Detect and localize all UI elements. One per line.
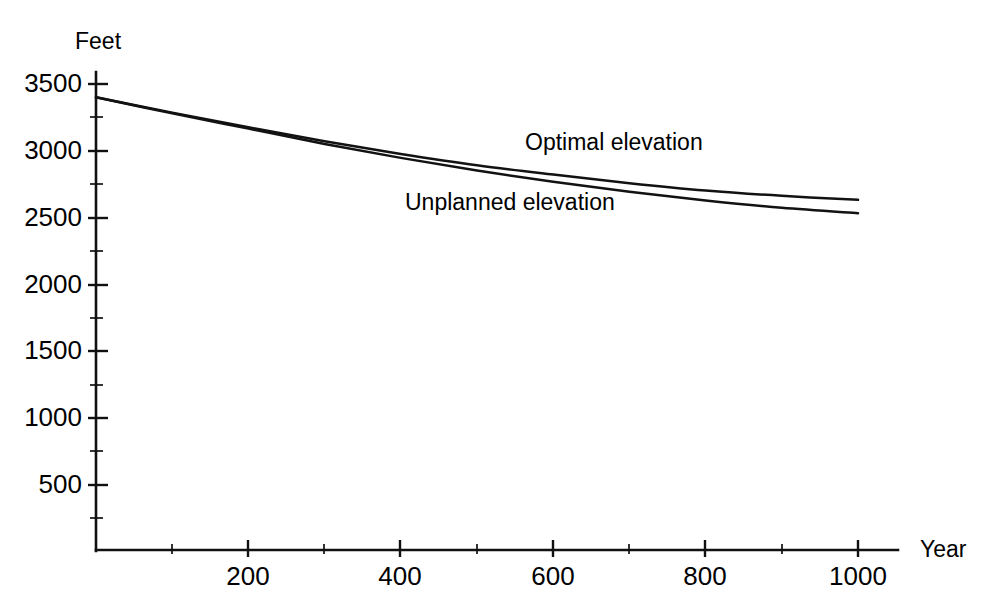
y-tick-label-2000: 2000: [0, 271, 82, 297]
y-tick-label-3500: 3500: [0, 70, 82, 96]
x-tick-label-400: 400: [345, 563, 455, 589]
x-axis-title: Year: [920, 538, 966, 561]
chart-canvas: [0, 0, 994, 611]
x-tick-label-800: 800: [650, 563, 760, 589]
y-tick-label-2500: 2500: [0, 204, 82, 230]
y-tick-label-1000: 1000: [0, 404, 82, 430]
x-tick-label-200: 200: [193, 563, 303, 589]
y-tick-label-1500: 1500: [0, 337, 82, 363]
x-axis-major-ticks: [248, 540, 858, 557]
y-tick-label-3000: 3000: [0, 137, 82, 163]
series-line-optimal-elevation: [96, 97, 858, 200]
y-axis-title: Feet: [75, 30, 121, 53]
y-tick-label-500: 500: [0, 471, 82, 497]
x-tick-label-600: 600: [498, 563, 608, 589]
y-axis-major-ticks: [88, 84, 108, 485]
x-tick-label-1000: 1000: [803, 563, 913, 589]
elevation-decline-chart: Feet Year 3500 3000 2500 2000 1500 1000 …: [0, 0, 994, 611]
series-label-optimal-elevation: Optimal elevation: [525, 131, 703, 154]
series-label-unplanned-elevation: Unplanned elevation: [405, 191, 615, 214]
